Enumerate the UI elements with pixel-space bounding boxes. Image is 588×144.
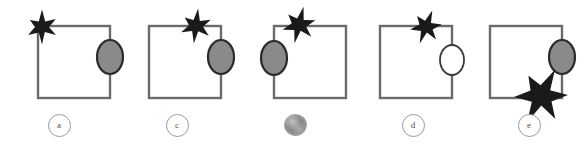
panel-c: c: [118, 0, 236, 144]
smudged-label-blob: [284, 114, 307, 136]
panel-b-smudged-diagram: [236, 0, 354, 110]
panel-b-smudged: [236, 0, 354, 144]
filled-ellipse-shape: [261, 41, 287, 75]
panel-b-smudged-canvas: [236, 0, 354, 110]
panel-c-label: c: [118, 108, 236, 142]
figure-strip: acde: [0, 0, 588, 144]
panel-a: a: [0, 0, 118, 144]
panel-e-canvas: [470, 0, 588, 110]
panel-label-circle: e: [518, 114, 541, 137]
filled-ellipse-shape: [208, 40, 234, 74]
panel-d-diagram: [354, 0, 472, 110]
panel-b-smudged-label: [236, 108, 354, 142]
panel-e-diagram: [470, 0, 588, 110]
panel-c-canvas: [118, 0, 236, 110]
panel-label-circle: d: [402, 114, 425, 137]
panel-a-canvas: [0, 0, 118, 110]
panel-a-label: a: [0, 108, 118, 142]
panel-d-label: d: [354, 108, 472, 142]
panel-e: e: [470, 0, 588, 144]
panel-label-circle: a: [48, 114, 71, 137]
panel-a-diagram: [0, 0, 118, 110]
empty-ellipse-shape: [440, 45, 464, 75]
filled-ellipse-shape: [549, 40, 575, 74]
panel-d-canvas: [354, 0, 472, 110]
panel-c-diagram: [118, 0, 236, 110]
panel-label-circle: c: [166, 114, 189, 137]
panel-e-label: e: [470, 108, 588, 142]
panel-d: d: [354, 0, 472, 144]
